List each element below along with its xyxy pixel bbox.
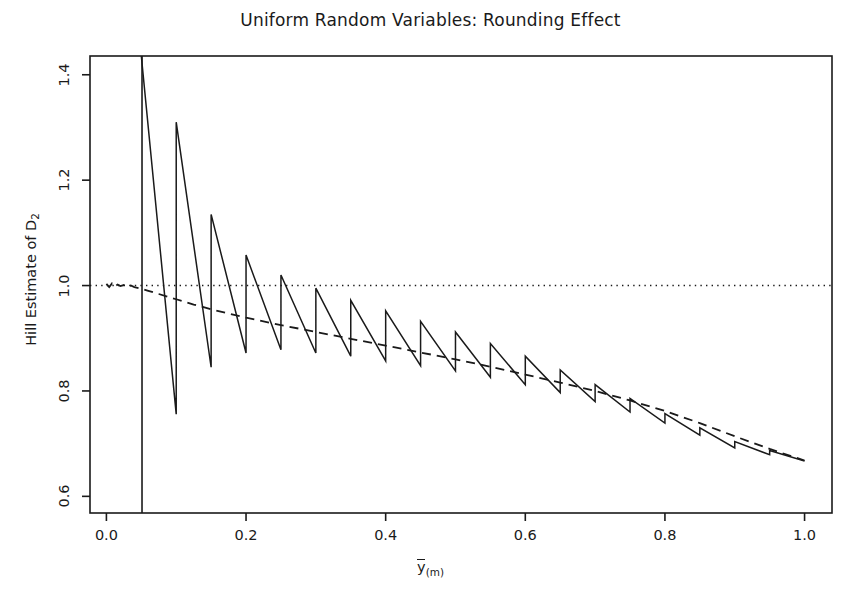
- axis-ticks: [82, 75, 805, 521]
- x-tick-label: 1.0: [793, 527, 816, 543]
- x-tick-label: 0.6: [514, 527, 537, 543]
- y-tick-label: 1.0: [56, 274, 72, 297]
- chart-figure: Uniform Random Variables: Rounding Effec…: [0, 0, 861, 596]
- y-tick-label: 1.4: [56, 63, 72, 86]
- y-tick-label: 0.8: [56, 379, 72, 402]
- x-tick-label: 0.0: [95, 527, 118, 543]
- x-tick-label: 0.2: [235, 527, 258, 543]
- data-series: [90, 56, 832, 513]
- plot-box: [90, 56, 832, 513]
- y-tick-label: 0.6: [56, 485, 72, 508]
- rounded-hill-estimate-sawtooth: [141, 56, 804, 461]
- x-tick-label: 0.4: [374, 527, 397, 543]
- y-tick-label: 1.2: [56, 169, 72, 192]
- axes-box: [90, 56, 832, 513]
- x-tick-label: 0.8: [653, 527, 676, 543]
- plot-canvas: [0, 0, 861, 596]
